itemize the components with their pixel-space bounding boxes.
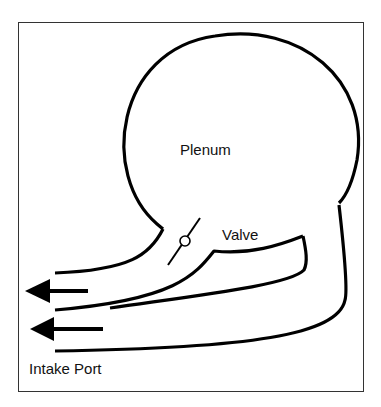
upper-runner-top-wall — [55, 229, 163, 273]
intake-port-label: Intake Port — [29, 360, 102, 377]
valve-label: Valve — [222, 226, 258, 243]
intake-diagram: Plenum Valve Intake Port — [0, 0, 381, 407]
diagram-frame — [19, 23, 364, 392]
plenum-wall — [124, 34, 359, 229]
valve-butterfly — [168, 218, 200, 265]
plenum-label: Plenum — [180, 141, 231, 158]
flow-arrow-upper — [25, 279, 88, 303]
flow-arrow-lower — [30, 317, 103, 341]
